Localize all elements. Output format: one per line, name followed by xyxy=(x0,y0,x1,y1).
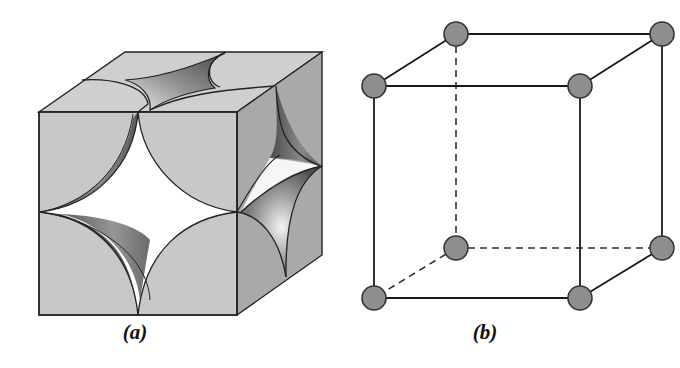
atoms xyxy=(362,22,674,310)
atom-front-bottom-left xyxy=(362,286,386,310)
atom-back-bottom-right xyxy=(650,236,674,260)
figure-a-space-filling-cube: (a) xyxy=(0,0,340,368)
caption-a: (a) xyxy=(123,320,148,345)
caption-b: (b) xyxy=(473,320,498,345)
atom-back-top-left xyxy=(444,22,468,46)
atom-back-bottom-left xyxy=(444,236,468,260)
space-filling-cube-drawing xyxy=(0,0,340,368)
figure-b-lattice-model: (b) xyxy=(340,0,680,368)
lattice-cube-drawing xyxy=(340,0,680,368)
atom-back-top-right xyxy=(650,22,674,46)
visible-edges xyxy=(374,34,662,298)
atom-front-top-right xyxy=(568,74,592,98)
hidden-edges xyxy=(374,34,662,298)
atom-front-top-left xyxy=(362,74,386,98)
hidden-edge-bottom-left-depth xyxy=(374,248,456,298)
front-face xyxy=(39,112,237,315)
atom-front-bottom-right xyxy=(568,286,592,310)
